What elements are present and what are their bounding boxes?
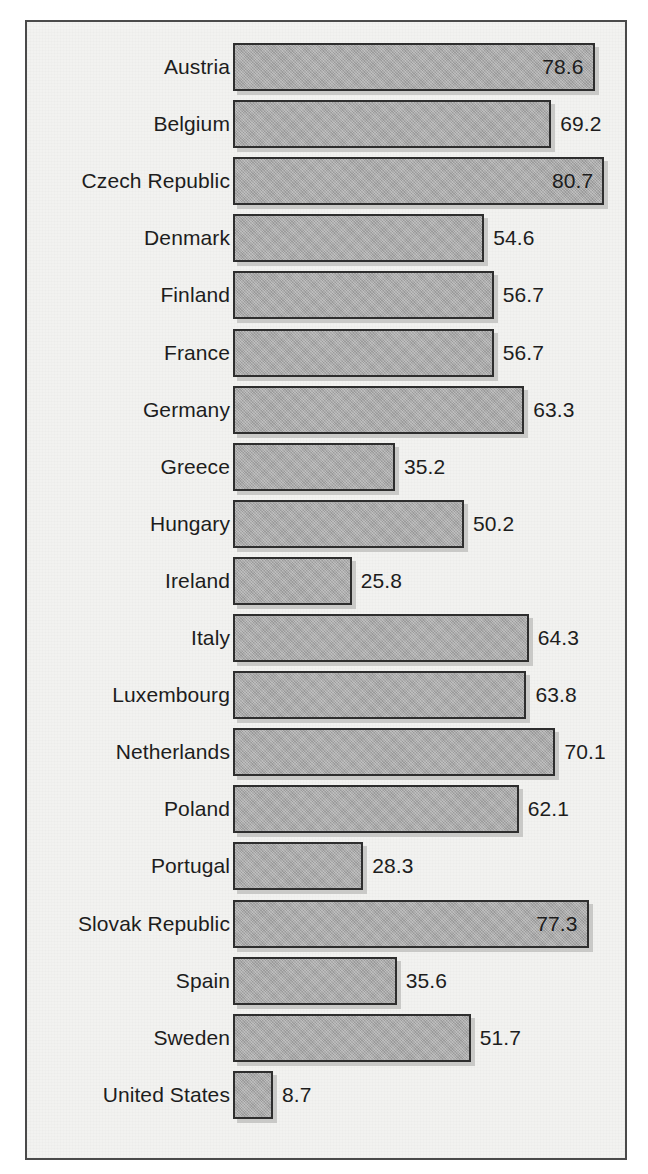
bar-container: 35.6 <box>233 957 397 1005</box>
bar-value-label: 28.3 <box>372 842 413 890</box>
bar-row: Germany63.3 <box>27 386 625 434</box>
bar-container: 78.6 <box>233 43 595 91</box>
bar-container: 70.1 <box>233 728 555 776</box>
category-label: Netherlands <box>116 728 230 776</box>
bar <box>233 1071 273 1119</box>
bar <box>233 157 604 205</box>
category-label: Germany <box>143 386 230 434</box>
category-label: Finland <box>160 271 230 319</box>
bar-row: Finland56.7 <box>27 271 625 319</box>
bar-container: 80.7 <box>233 157 604 205</box>
bar-container: 50.2 <box>233 500 464 548</box>
bar <box>233 100 551 148</box>
bar <box>233 1014 471 1062</box>
bar-row: Belgium69.2 <box>27 100 625 148</box>
bar <box>233 671 526 719</box>
bar-container: 35.2 <box>233 443 395 491</box>
bar <box>233 785 519 833</box>
bar-row: United States8.7 <box>27 1071 625 1119</box>
bar <box>233 271 494 319</box>
category-label: Luxembourg <box>112 671 230 719</box>
category-label: Spain <box>176 957 230 1005</box>
bar-value-label: 63.8 <box>535 671 576 719</box>
bar-row: Italy64.3 <box>27 614 625 662</box>
bar-value-label: 64.3 <box>538 614 579 662</box>
bar-row: Hungary50.2 <box>27 500 625 548</box>
bar-value-label: 70.1 <box>564 728 605 776</box>
bar <box>233 443 395 491</box>
bar-value-label: 54.6 <box>493 214 534 262</box>
bar-row: Ireland25.8 <box>27 557 625 605</box>
category-label: Ireland <box>165 557 230 605</box>
bar-container: 51.7 <box>233 1014 471 1062</box>
bar <box>233 43 595 91</box>
bar-row: Poland62.1 <box>27 785 625 833</box>
bar-row: Denmark54.6 <box>27 214 625 262</box>
bar-container: 56.7 <box>233 271 494 319</box>
figure-canvas: Austria78.6Belgium69.2Czech Republic80.7… <box>0 0 648 1174</box>
category-label: Portugal <box>151 842 230 890</box>
bar-container: 54.6 <box>233 214 484 262</box>
bar-value-label: 80.7 <box>552 157 593 205</box>
bar-container: 8.7 <box>233 1071 273 1119</box>
category-label: Sweden <box>154 1014 231 1062</box>
bar <box>233 728 555 776</box>
bar-container: 25.8 <box>233 557 352 605</box>
bar <box>233 557 352 605</box>
bar-chart-plot-area: Austria78.6Belgium69.2Czech Republic80.7… <box>27 22 625 1158</box>
bar <box>233 500 464 548</box>
bar-value-label: 35.6 <box>406 957 447 1005</box>
bar <box>233 329 494 377</box>
bar-row: Sweden51.7 <box>27 1014 625 1062</box>
bar-value-label: 25.8 <box>361 557 402 605</box>
bar-value-label: 50.2 <box>473 500 514 548</box>
bar-row: Portugal28.3 <box>27 842 625 890</box>
bar-container: 28.3 <box>233 842 363 890</box>
bar <box>233 614 529 662</box>
bar <box>233 842 363 890</box>
bar-row: Czech Republic80.7 <box>27 157 625 205</box>
category-label: Italy <box>191 614 230 662</box>
category-label: Hungary <box>150 500 230 548</box>
category-label: Greece <box>161 443 230 491</box>
bar-row: Greece35.2 <box>27 443 625 491</box>
bar-container: 62.1 <box>233 785 519 833</box>
bar-container: 77.3 <box>233 900 589 948</box>
bar-row: Luxembourg63.8 <box>27 671 625 719</box>
category-label: Belgium <box>153 100 230 148</box>
bar-value-label: 78.6 <box>542 43 583 91</box>
category-label: Austria <box>164 43 230 91</box>
bar-value-label: 35.2 <box>404 443 445 491</box>
bar-row: Austria78.6 <box>27 43 625 91</box>
chart-frame: Austria78.6Belgium69.2Czech Republic80.7… <box>25 20 627 1160</box>
bar-value-label: 69.2 <box>560 100 601 148</box>
bar <box>233 386 524 434</box>
bar-container: 69.2 <box>233 100 551 148</box>
category-label: France <box>164 329 230 377</box>
category-label: Slovak Republic <box>78 900 230 948</box>
bar <box>233 957 397 1005</box>
bar-row: Spain35.6 <box>27 957 625 1005</box>
bar-value-label: 56.7 <box>503 271 544 319</box>
bar-row: Netherlands70.1 <box>27 728 625 776</box>
bar-row: France56.7 <box>27 329 625 377</box>
bar-container: 64.3 <box>233 614 529 662</box>
bar-value-label: 77.3 <box>536 900 577 948</box>
category-label: Poland <box>164 785 230 833</box>
bar-row: Slovak Republic77.3 <box>27 900 625 948</box>
bar-value-label: 51.7 <box>480 1014 521 1062</box>
category-label: Denmark <box>144 214 230 262</box>
bar-container: 63.8 <box>233 671 526 719</box>
bar-container: 63.3 <box>233 386 524 434</box>
bar-container: 56.7 <box>233 329 494 377</box>
bar-value-label: 8.7 <box>282 1071 312 1119</box>
bar-value-label: 56.7 <box>503 329 544 377</box>
bar-value-label: 62.1 <box>528 785 569 833</box>
bar-value-label: 63.3 <box>533 386 574 434</box>
bar <box>233 900 589 948</box>
bar <box>233 214 484 262</box>
category-label: United States <box>103 1071 230 1119</box>
category-label: Czech Republic <box>82 157 230 205</box>
